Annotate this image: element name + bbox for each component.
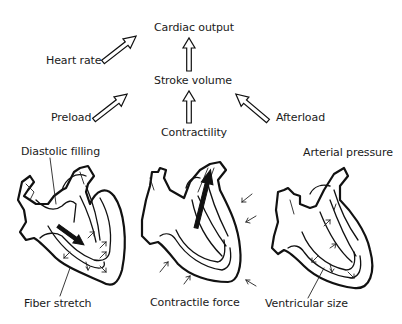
- arrow-stroke-volume-to-cardiac-output-icon: [183, 38, 195, 71]
- arrow-heart-rate-to-cardiac-output-icon: [99, 31, 139, 66]
- arrow-afterload-to-stroke-volume-icon: [232, 89, 272, 125]
- diagram-graphics: [0, 0, 402, 324]
- arrow-preload-to-stroke-volume-icon: [90, 89, 130, 124]
- heart-arterial-pressure: [272, 168, 372, 298]
- heart-diastolic-filling: [18, 158, 125, 296]
- cardiac-output-diagram: Cardiac output Heart rate Stroke volume …: [0, 0, 402, 324]
- heart-contractile-force: [142, 162, 256, 286]
- arrow-contractility-to-stroke-volume-icon: [183, 91, 195, 123]
